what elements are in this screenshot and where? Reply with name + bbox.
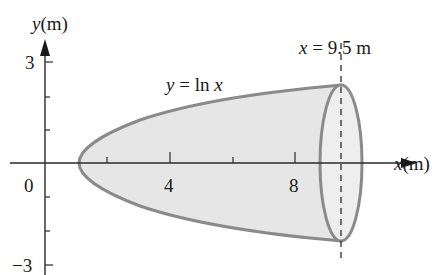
y-tick-label-neg3: −3 xyxy=(12,255,32,275)
x-tick-label-4: 4 xyxy=(164,175,174,196)
y-axis-arrow-icon xyxy=(40,39,50,56)
curve-label: y = ln x xyxy=(164,74,223,95)
y-tick-label-3: 3 xyxy=(25,52,35,73)
x-tick-label-0: 0 xyxy=(24,175,34,196)
x-axis-label: x(m) xyxy=(393,153,430,175)
solid-of-revolution-diagram: y(m) x(m) 3 −3 0 4 8 y = ln x x = 9.5 m xyxy=(0,0,438,275)
x-tick-label-8: 8 xyxy=(289,175,299,196)
boundary-label: x = 9.5 m xyxy=(298,37,371,58)
y-axis-label: y(m) xyxy=(30,13,68,35)
